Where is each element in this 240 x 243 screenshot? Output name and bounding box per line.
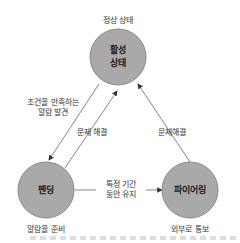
- cropped-text-remnant: [30, 236, 240, 240]
- node-firing-label: 파이어링: [160, 184, 220, 197]
- node-active-label-line2: 상태: [90, 57, 146, 70]
- edge-label-sustained: 특정 기간 동안 유지: [96, 180, 146, 200]
- edge-label-alarm-found: 조건을 만족하는 알람 발견: [20, 98, 86, 118]
- edge-firing-to-active: [138, 84, 190, 162]
- caption-active: 정상 상태: [88, 16, 148, 26]
- node-active-label: 활성 상태: [90, 44, 146, 70]
- caption-pending: 알람을 준비: [14, 225, 78, 235]
- edge-label-resolved-right: 문제해결: [150, 128, 194, 138]
- edge-label-resolved-left: 문제 해결: [70, 128, 114, 138]
- edge-label-alarm-found-line1: 조건을 만족하는: [20, 98, 86, 108]
- node-active-label-line1: 활성: [90, 44, 146, 57]
- edge-label-alarm-found-line2: 알람 발견: [20, 108, 86, 118]
- edge-label-sustained-line2: 동안 유지: [96, 190, 146, 200]
- diagram-canvas: [0, 0, 240, 243]
- node-pending-label: 펜딩: [18, 184, 74, 197]
- edge-label-sustained-line1: 특정 기간: [96, 180, 146, 190]
- edge-active-to-pending: [49, 84, 99, 160]
- caption-firing: 외부로 통보: [158, 225, 222, 235]
